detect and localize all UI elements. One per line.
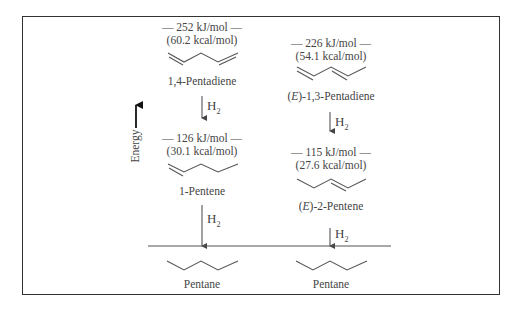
pentene-2-energy-kj: — 115 kJ/mol — (291, 146, 371, 159)
pentane-right-name: Pentane (313, 278, 349, 291)
pentadiene-1-3-structure (297, 67, 366, 80)
pentadiene-1-3-name: (E)-1,3-Pentadiene (287, 90, 374, 103)
pentane-left-name: Pentane (184, 278, 220, 291)
pentene-2-energy-kcal: (27.6 kcal/mol) (296, 159, 367, 172)
energy-axis-label: Energy (129, 129, 141, 163)
pentene-1-structure (168, 164, 238, 176)
pentane-left-structure (167, 261, 238, 270)
h2-reagent-right-2: H2 (335, 226, 348, 244)
h2-reagent-left-2: H2 (207, 211, 220, 229)
pentadiene-1-4-structure (168, 53, 238, 65)
pentadiene-1-4-energy-kj: — 252 kJ/mol — (162, 21, 242, 34)
h2-reagent-left-1: H2 (207, 98, 220, 116)
pentadiene-1-4-name: 1,4-Pentadiene (168, 75, 237, 88)
pentene-1-energy-kcal: (30.1 kcal/mol) (167, 145, 238, 158)
pentene-2-name: (E)-2-Pentene (299, 200, 364, 213)
pentene-1-name: 1-Pentene (179, 185, 225, 198)
pentane-right-structure (296, 261, 367, 270)
pentadiene-1-3-energy-kj: — 226 kJ/mol — (291, 37, 371, 50)
h2-reagent-right-1: H2 (335, 114, 348, 132)
pentadiene-1-4-energy-kcal: (60.2 kcal/mol) (167, 34, 238, 47)
pentene-1-energy-kj: — 126 kJ/mol — (162, 132, 242, 145)
pentene-2-structure (297, 179, 366, 191)
pentadiene-1-3-energy-kcal: (54.1 kcal/mol) (296, 50, 367, 63)
diagram-graphics (0, 0, 518, 310)
